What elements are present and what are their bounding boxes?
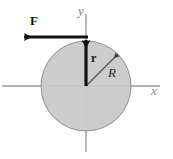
force-label: F — [30, 14, 38, 27]
physics-figure: F y x r R — [0, 0, 173, 159]
radius-label: R — [108, 66, 116, 79]
figure-canvas — [0, 0, 173, 159]
x-axis-label: x — [151, 84, 157, 97]
y-axis-label: y — [78, 4, 84, 17]
position-vector-label: r — [91, 52, 96, 64]
